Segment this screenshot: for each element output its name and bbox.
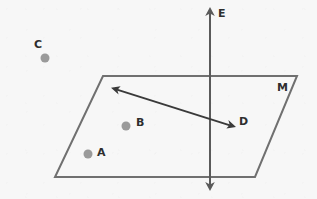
geometry-diagram: E D M A B C xyxy=(0,0,317,199)
line-d-diagonal xyxy=(111,86,236,128)
line-d-shaft xyxy=(117,90,230,126)
point-b-label: B xyxy=(136,117,145,128)
plane-m-parallelogram xyxy=(55,76,297,177)
line-e-label: E xyxy=(218,8,226,19)
line-e-vertical xyxy=(205,7,215,191)
plane-m-label: M xyxy=(277,82,288,93)
point-c-dot xyxy=(41,54,50,63)
point-a-label: A xyxy=(97,147,106,158)
line-d-label: D xyxy=(239,116,248,127)
diagram-canvas xyxy=(0,0,317,199)
point-a-dot xyxy=(84,150,93,159)
point-b-dot xyxy=(122,122,131,131)
point-c-label: C xyxy=(34,39,42,50)
